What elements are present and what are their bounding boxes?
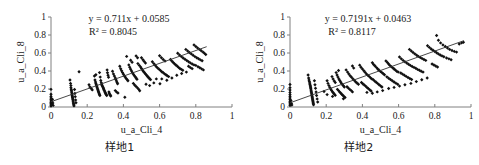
y-tick-label: 1 (280, 12, 285, 22)
y-tick-label: 0.4 (34, 66, 46, 76)
data-point (409, 82, 412, 85)
y-axis-title: u_a_Cli_8 (15, 41, 26, 83)
data-point (180, 72, 183, 75)
x-tick-label: 0.8 (190, 111, 202, 121)
regression-line (290, 41, 464, 103)
data-point (158, 82, 161, 85)
x-tick-label: 0.6 (154, 111, 166, 121)
y-tick-label: 0.8 (34, 30, 46, 40)
data-point (160, 77, 163, 80)
r-squared-label: R² = 0.8117 (328, 26, 375, 37)
data-point (105, 68, 108, 71)
scatter-plot-2: 00.20.40.60.8100.20.40.60.81y = 0.7191x … (239, 0, 478, 136)
y-tick-label: 0.2 (34, 84, 46, 94)
x-tick-label: 0.4 (356, 111, 368, 121)
data-point (288, 83, 291, 86)
data-point (392, 86, 395, 89)
data-point (439, 41, 442, 44)
scatter-points (288, 34, 465, 107)
data-point (152, 81, 155, 84)
data-point (437, 39, 440, 42)
data-point (313, 83, 316, 86)
x-tick-label: 0.2 (320, 111, 332, 121)
y-tick-label: 0 (280, 102, 285, 112)
data-point (170, 76, 173, 79)
data-point (123, 96, 126, 99)
y-tick-label: 0.6 (273, 48, 285, 58)
scatter-figure: 00.20.40.60.8100.20.40.60.81y = 0.711x +… (0, 0, 479, 165)
data-point (314, 87, 317, 90)
r-squared-label: R² = 0.8045 (89, 26, 137, 37)
data-point (325, 93, 328, 96)
data-point (337, 69, 340, 72)
data-point (376, 90, 379, 93)
data-point (325, 79, 328, 82)
x-tick-label: 1 (469, 111, 474, 121)
regression-line (51, 47, 207, 102)
data-point (144, 83, 147, 86)
data-point (73, 88, 76, 91)
data-point (125, 55, 128, 58)
y-tick-label: 0 (41, 102, 46, 112)
equation-label: y = 0.7191x + 0.0463 (325, 13, 411, 24)
data-point (106, 71, 109, 74)
data-point (420, 78, 423, 81)
data-point (74, 95, 77, 98)
data-point (77, 70, 80, 73)
data-point (315, 97, 318, 100)
data-point (155, 77, 158, 80)
x-tick-label: 1 (230, 111, 235, 121)
data-point (315, 94, 318, 97)
data-point (111, 69, 114, 72)
equation-label: y = 0.711x + 0.0585 (89, 13, 170, 24)
y-tick-label: 0.4 (273, 66, 285, 76)
y-tick-label: 0.6 (34, 48, 46, 58)
x-tick-label: 0 (49, 111, 54, 121)
x-tick-label: 0.2 (81, 111, 93, 121)
y-axis-title: u_a_Cli_8 (254, 41, 265, 83)
data-point (387, 87, 390, 90)
data-point (68, 78, 71, 81)
y-tick-label: 0.2 (273, 84, 285, 94)
data-point (306, 73, 309, 76)
panel-caption-1: 样地1 (0, 138, 239, 154)
data-point (49, 88, 52, 91)
data-point (425, 76, 428, 79)
x-tick-label: 0 (288, 111, 293, 121)
data-point (365, 91, 368, 94)
data-point (185, 70, 188, 73)
data-point (403, 83, 406, 86)
x-axis-title: u_a_Cli_4 (121, 124, 163, 135)
panel-plot-1: 00.20.40.60.8100.20.40.60.81y = 0.711x +… (0, 0, 239, 165)
data-point (175, 74, 178, 77)
data-point (99, 75, 102, 78)
plot-area-1: 00.20.40.60.8100.20.40.60.81y = 0.711x +… (0, 0, 239, 136)
scatter-plot-1: 00.20.40.60.8100.20.40.60.81y = 0.711x +… (0, 0, 239, 136)
data-point (316, 100, 319, 103)
panel-plot-2: 00.20.40.60.8100.20.40.60.81y = 0.7191x … (239, 0, 478, 165)
x-tick-label: 0.4 (117, 111, 129, 121)
data-point (148, 84, 151, 87)
y-tick-label: 1 (41, 12, 46, 22)
data-point (415, 80, 418, 83)
x-axis-title: u_a_Cli_4 (360, 124, 402, 135)
scatter-points (49, 43, 207, 108)
data-point (98, 71, 101, 74)
x-tick-label: 0.6 (393, 111, 405, 121)
y-tick-label: 0.8 (273, 30, 285, 40)
data-point (435, 34, 438, 37)
panel-caption-2: 样地2 (239, 138, 478, 154)
plot-area-2: 00.20.40.60.8100.20.40.60.81y = 0.7191x … (239, 0, 478, 136)
data-point (313, 79, 316, 82)
data-point (381, 89, 384, 92)
x-tick-label: 0.8 (429, 111, 441, 121)
data-point (165, 78, 168, 81)
